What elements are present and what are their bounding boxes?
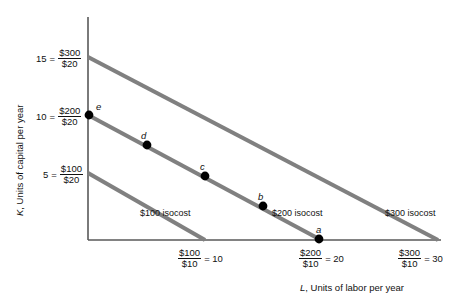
x-tick-denominator-30: $10 — [401, 259, 419, 269]
point-label-c: c — [200, 161, 205, 172]
isocost-chart-figure: K, Units of capital per year L, Units of… — [0, 0, 459, 304]
point-label-a: a — [316, 224, 321, 235]
y-tick-equals-10: = — [50, 111, 56, 122]
x-axis-title-rest: , Units of labor per year — [305, 282, 404, 293]
data-point-b — [259, 202, 268, 211]
x-tick-equals-10: = 10 — [204, 253, 223, 264]
y-axis-symbol: K — [14, 210, 25, 216]
y-tick-value-5: 5 — [43, 169, 48, 180]
x-tick-fraction-20: $200 $10 — [299, 248, 322, 270]
y-tick-denominator-5: $20 — [63, 175, 81, 185]
y-tick-denominator-10: $20 — [61, 117, 79, 127]
y-tick-label-10: 10 = $200 $20 — [36, 106, 81, 128]
y-tick-equals-5: = — [51, 169, 57, 180]
y-tick-value-15: 15 — [36, 53, 47, 64]
data-point-e — [85, 111, 94, 120]
y-tick-denominator-15: $20 — [61, 59, 79, 69]
point-label-d: d — [141, 130, 146, 141]
data-point-d — [143, 141, 152, 150]
x-tick-denominator-10: $10 — [181, 259, 199, 269]
x-tick-fraction-30: $300 $10 — [398, 248, 421, 270]
x-tick-label-10: $100 $10 = 10 — [178, 248, 223, 270]
point-label-b: b — [258, 191, 263, 202]
y-tick-label-15: 15 = $300 $20 — [36, 48, 81, 70]
x-tick-label-20: $200 $10 = 20 — [299, 248, 344, 270]
x-tick-equals-30: = 30 — [424, 253, 443, 264]
y-axis-title-rest: , Units of capital per year — [14, 105, 25, 210]
x-tick-equals-20: = 20 — [325, 253, 344, 264]
x-axis-title: L, Units of labor per year — [300, 282, 404, 293]
isocost-label-100: $100 isocost — [140, 208, 191, 218]
y-tick-value-10: 10 — [36, 111, 47, 122]
data-point-c — [201, 172, 210, 181]
y-tick-fraction-10: $200 $20 — [58, 106, 81, 128]
y-tick-fraction-15: $300 $20 — [58, 48, 81, 70]
y-tick-fraction-5: $100 $20 — [60, 164, 83, 186]
plot-canvas — [0, 0, 459, 304]
x-tick-label-30: $300 $10 = 30 — [398, 248, 443, 270]
isocost-label-300: $300 isocost — [385, 208, 436, 218]
x-tick-fraction-10: $100 $10 — [178, 248, 201, 270]
isocost-label-200: $200 isocost — [272, 208, 323, 218]
y-tick-equals-15: = — [50, 53, 56, 64]
y-tick-label-5: 5 = $100 $20 — [43, 164, 83, 186]
x-tick-denominator-20: $10 — [302, 259, 320, 269]
point-label-e: e — [96, 101, 101, 112]
y-axis-title: K, Units of capital per year — [14, 105, 25, 216]
isocost-line-100 — [88, 173, 205, 240]
data-point-a — [315, 235, 324, 244]
